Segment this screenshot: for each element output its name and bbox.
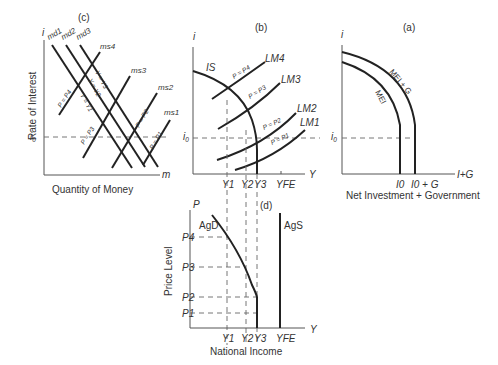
panel-c-money-market: (c) i m i0 Rate of Interest Quantity of … xyxy=(27,12,179,195)
ms3-label: ms3 xyxy=(131,66,147,75)
panel-b-is-lm: (b) i Y i0 IS LM4 LM3 LM2 LM1 P = P4 P =… xyxy=(183,22,320,190)
ms3-p-label: P = P3 xyxy=(79,125,96,145)
panel-c-y-axis-label: i xyxy=(42,27,45,38)
mei-curve xyxy=(342,62,400,174)
mei-g-curve xyxy=(342,52,415,174)
md1-y-label: Y = Y1 xyxy=(79,92,94,113)
p4-tick: P4 xyxy=(182,232,195,243)
panel-d-y3-tick: Y3 xyxy=(254,333,267,344)
ms2-label: ms2 xyxy=(158,83,174,92)
lm4-p-label: P = P4 xyxy=(231,63,252,79)
lm4-label: LM4 xyxy=(265,53,285,64)
panel-c-x-axis-label: m xyxy=(162,169,170,180)
panel-a-x-title: Net Investment + Government xyxy=(346,190,480,201)
panel-b-x-axis-label: Y xyxy=(309,169,317,180)
lm2-label: LM2 xyxy=(297,103,317,114)
panel-d-agd-ags: (d) P Y Price Level National Income P4 P… xyxy=(163,199,318,357)
panel-d-x-title: National Income xyxy=(210,346,283,357)
panel-b-tag: (b) xyxy=(255,22,267,33)
lm3-label: LM3 xyxy=(281,74,301,85)
panel-c-tag: (c) xyxy=(78,12,90,23)
p2-tick: P2 xyxy=(182,292,195,303)
panel-a-i0-label: i0 xyxy=(331,131,337,143)
islm-agd-diagram: (c) i m i0 Rate of Interest Quantity of … xyxy=(0,0,498,365)
panel-a-investment: (a) i I+G i0 MEI MEI + G I0 I0 + G Net I… xyxy=(331,22,480,201)
panel-d-x-axis-label: Y xyxy=(310,324,318,335)
i0-tick: I0 xyxy=(396,179,405,190)
panel-d-y2-tick: Y2 xyxy=(241,333,254,344)
agd-label: AgD xyxy=(199,220,218,231)
panel-b-y-axis-label: i xyxy=(193,31,196,42)
panel-a-y-axis-label: i xyxy=(341,29,344,40)
i0-g-tick: I0 + G xyxy=(411,179,439,190)
panel-d-y-title: Price Level xyxy=(163,247,174,296)
panel-c-x-title: Quantity of Money xyxy=(52,184,133,195)
panel-d-yfe-tick: YFE xyxy=(276,333,296,344)
panel-b-yfe-tick: YFE xyxy=(276,179,296,190)
ags-label: AgS xyxy=(284,220,303,231)
panel-b-y3-tick: Y3 xyxy=(254,179,267,190)
md3-label: md3 xyxy=(75,26,93,42)
p1-tick: P1 xyxy=(182,308,194,319)
panel-c-y-title: Rate of Interest xyxy=(27,71,38,140)
panel-b-i0-label: i0 xyxy=(183,131,189,143)
ms2-p-label: P = P2 xyxy=(134,108,150,129)
mei-g-label: MEI + G xyxy=(387,68,413,96)
panel-b-y1-tick: Y1 xyxy=(222,179,234,190)
panel-d-tag: (d) xyxy=(260,200,272,211)
agd-curve xyxy=(212,215,257,328)
is-label: IS xyxy=(206,62,216,73)
panel-b-y2-tick: Y2 xyxy=(241,179,254,190)
ms1-p-label: P = P1 xyxy=(148,130,164,151)
panel-d-y1-tick: Y1 xyxy=(222,333,234,344)
lm1-label: LM1 xyxy=(300,117,319,128)
p3-tick: P3 xyxy=(182,262,195,273)
panel-a-tag: (a) xyxy=(403,22,415,33)
ms1-label: ms1 xyxy=(164,108,179,117)
panel-a-x-axis-label: I+G xyxy=(457,169,474,180)
is-curve xyxy=(193,71,257,174)
panel-d-y-axis-label: P xyxy=(193,199,200,210)
ms4-label: ms4 xyxy=(100,42,116,51)
md2-curve xyxy=(66,45,145,167)
